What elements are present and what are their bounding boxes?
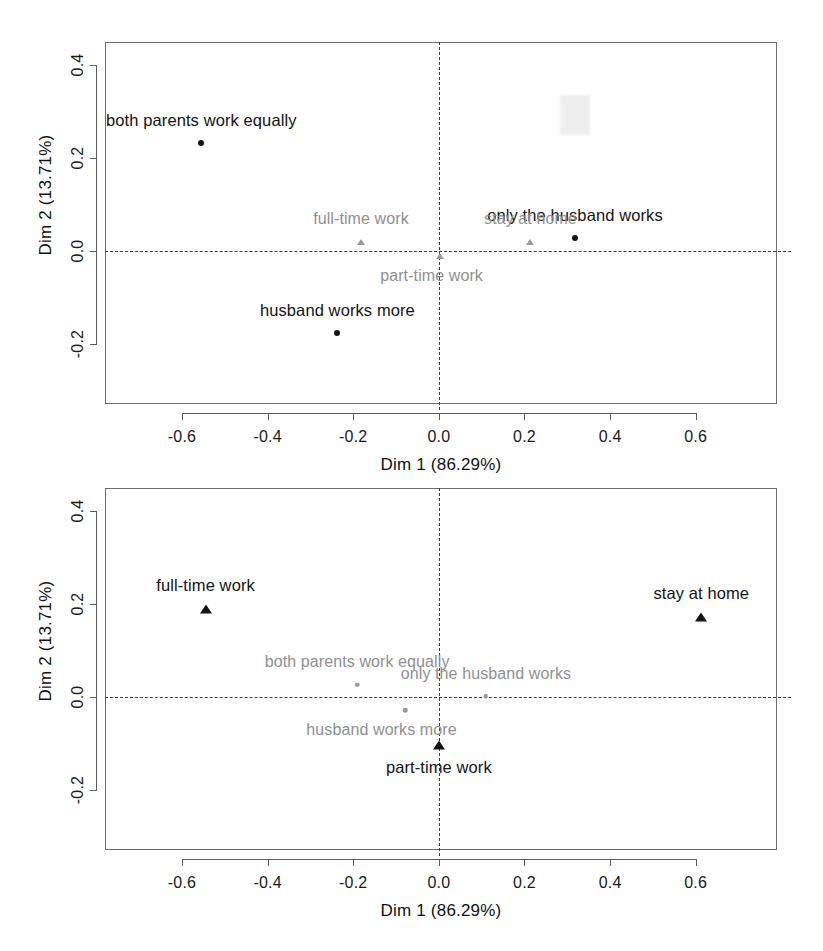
x-axis-tick-label: -0.2 <box>339 428 367 446</box>
y-axis-tick <box>90 65 97 66</box>
y-axis-tick-label: 0.2 <box>69 147 87 170</box>
mca-factor-map-top: -0.6-0.4-0.20.00.20.40.60.40.20.0-0.2Dim… <box>0 0 823 475</box>
plot-frame-top <box>105 42 777 404</box>
point-label: only the husband works <box>401 665 571 683</box>
y-axis-tick-label: 0.4 <box>69 500 87 523</box>
data-point-triangle <box>433 740 445 749</box>
x-axis-tick-label: 0.4 <box>599 428 622 446</box>
y-axis-tick-label: 0.2 <box>69 593 87 616</box>
x-axis-tick <box>439 859 440 866</box>
x-axis-tick-label: 0.0 <box>427 428 450 446</box>
x-axis-tick-label: 0.6 <box>684 874 707 892</box>
x-axis-tick-label: 0.0 <box>427 874 450 892</box>
x-axis-tick <box>439 413 440 420</box>
x-axis-tick <box>696 859 697 866</box>
y-axis-title: Dim 2 (13.71%) <box>36 581 56 702</box>
point-label: part-time work <box>380 267 483 285</box>
data-point-circle <box>198 140 204 146</box>
x-axis-tick-label: 0.2 <box>513 874 536 892</box>
data-point-circle <box>334 330 340 336</box>
x-axis-tick <box>353 859 354 866</box>
x-axis-tick <box>182 859 183 866</box>
y-axis-title: Dim 2 (13.71%) <box>36 135 56 256</box>
y-axis-tick <box>90 344 97 345</box>
x-axis-tick-label: -0.2 <box>339 874 367 892</box>
point-label: husband works more <box>260 301 415 320</box>
reference-line-horizontal <box>105 697 791 698</box>
x-axis-tick-label: -0.4 <box>253 428 281 446</box>
y-axis-tick-label: 0.0 <box>69 239 87 262</box>
x-axis-title: Dim 1 (86.29%) <box>381 901 502 921</box>
point-label: full-time work <box>156 576 255 595</box>
x-axis-tick <box>182 413 183 420</box>
y-axis-tick-label: 0.4 <box>69 54 87 77</box>
y-axis-line-top <box>96 65 97 343</box>
point-label: stay at home <box>484 210 577 228</box>
y-axis-tick-label: -0.2 <box>69 775 87 803</box>
point-label: both parents work equally <box>106 111 297 130</box>
y-axis-tick <box>90 251 97 252</box>
x-axis-tick-label: -0.6 <box>168 428 196 446</box>
x-axis-tick <box>268 859 269 866</box>
y-axis-line-bottom <box>96 511 97 789</box>
x-axis-tick <box>268 413 269 420</box>
data-point-circle <box>572 235 578 241</box>
x-axis-tick-label: -0.4 <box>253 874 281 892</box>
x-axis-tick-label: 0.2 <box>513 428 536 446</box>
data-point-triangle <box>357 239 365 245</box>
y-axis-tick-label: 0.0 <box>69 685 87 708</box>
reference-line-horizontal <box>105 251 791 252</box>
y-axis-tick <box>90 697 97 698</box>
x-axis-tick <box>610 413 611 420</box>
y-axis-tick <box>90 604 97 605</box>
y-axis-tick-label: -0.2 <box>69 329 87 357</box>
data-point-triangle <box>695 612 707 621</box>
x-axis-tick <box>696 413 697 420</box>
point-label: stay at home <box>653 584 749 603</box>
data-point-triangle <box>436 253 444 259</box>
data-point-circle <box>355 683 360 688</box>
data-point-circle <box>484 694 489 699</box>
mca-factor-map-bottom: -0.6-0.4-0.20.00.20.40.60.40.20.0-0.2Dim… <box>0 470 823 951</box>
x-axis-tick-label: 0.6 <box>684 428 707 446</box>
data-point-triangle <box>526 239 534 245</box>
x-axis-tick <box>524 859 525 866</box>
reference-line-vertical <box>439 42 440 410</box>
x-axis-tick-label: 0.4 <box>599 874 622 892</box>
x-axis-tick <box>524 413 525 420</box>
y-axis-tick <box>90 511 97 512</box>
point-label: husband works more <box>306 721 456 739</box>
x-axis-tick-label: -0.6 <box>168 874 196 892</box>
y-axis-tick <box>90 158 97 159</box>
scan-artifact <box>560 95 590 135</box>
x-axis-tick <box>610 859 611 866</box>
point-label: full-time work <box>313 210 409 228</box>
data-point-circle <box>403 708 408 713</box>
data-point-triangle <box>200 604 212 613</box>
x-axis-tick <box>353 413 354 420</box>
point-label: part-time work <box>386 758 492 777</box>
y-axis-tick <box>90 790 97 791</box>
